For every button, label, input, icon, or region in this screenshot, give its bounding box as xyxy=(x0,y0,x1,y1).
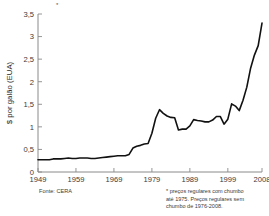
y-tick-label: 1 xyxy=(30,123,34,132)
y-tick-label: 0,5 xyxy=(23,145,34,154)
y-tick-label: 2 xyxy=(30,78,34,87)
y-axis-title: $ por galão (EUA) xyxy=(5,61,14,124)
gasoline-price-chart: * 00,511,522,533,5 194919591969197919891… xyxy=(0,0,269,216)
x-tick-label: 1979 xyxy=(143,175,160,184)
footnote-line: até 1975. Preços regulares sem xyxy=(166,196,244,202)
x-tick-label: 1999 xyxy=(219,175,236,184)
x-tick-label: 1969 xyxy=(105,175,122,184)
y-tick-label: 1,5 xyxy=(23,100,34,109)
footnote-line: * preços regulares com chumbo xyxy=(166,188,244,194)
x-tick-label: 1959 xyxy=(68,175,85,184)
x-tick-label: 1989 xyxy=(181,175,198,184)
x-tick-label: 1949 xyxy=(30,175,47,184)
footnote-line: chumbo de 1976-2008. xyxy=(166,203,223,209)
x-tick-label: 2008 xyxy=(254,175,269,184)
chart-canvas: * 00,511,522,533,5 194919591969197919891… xyxy=(0,0,269,216)
y-tick-label: 3,5 xyxy=(23,10,34,19)
y-tick-label: 3 xyxy=(30,32,34,41)
source-label: Fonte: CERA xyxy=(39,188,72,194)
y-tick-label: 2,5 xyxy=(23,55,34,64)
